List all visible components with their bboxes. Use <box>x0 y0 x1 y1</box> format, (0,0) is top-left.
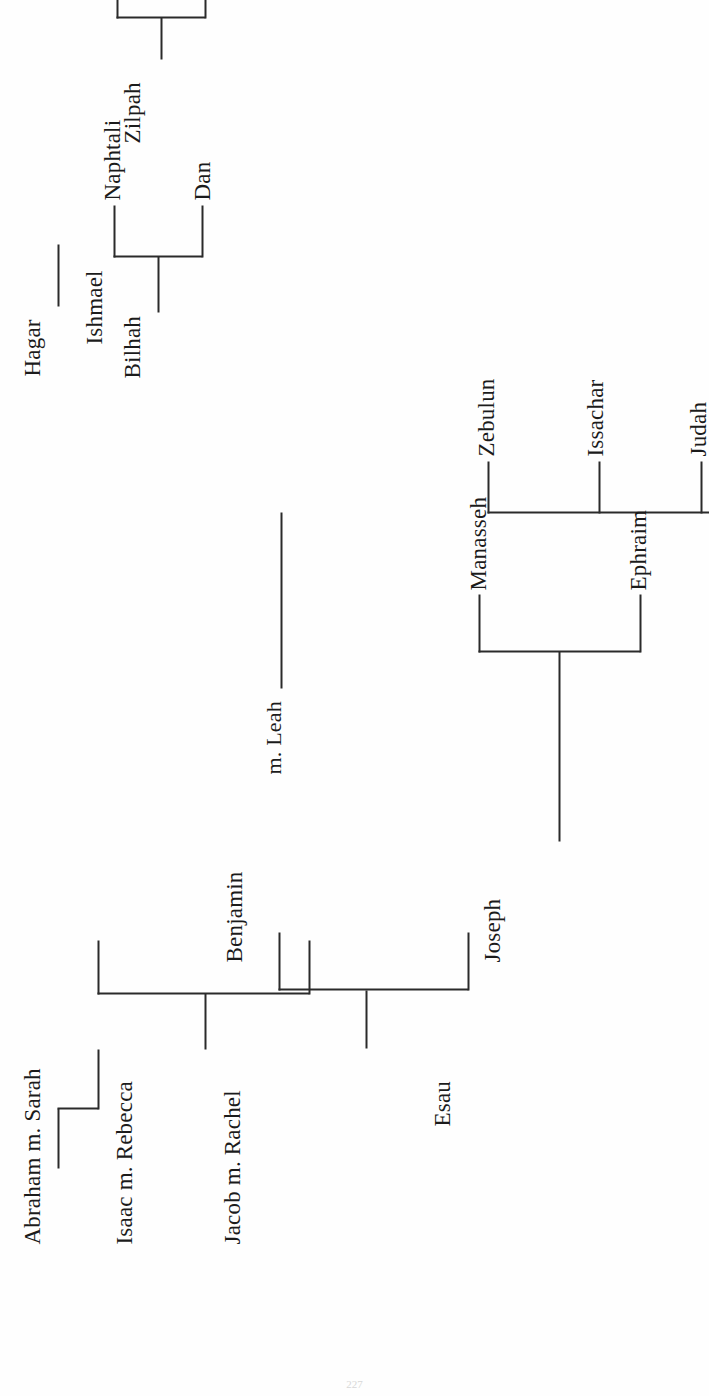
edge-joseph-stub <box>558 651 560 841</box>
edge-isaac-stub <box>204 993 206 1049</box>
edge-bilhah-bracket <box>113 255 202 257</box>
edge-isaac-to-esau <box>308 940 310 994</box>
edge-joseph-bracket <box>478 650 640 652</box>
node-bilhah: Bilhah <box>120 315 143 378</box>
genealogy-chart: Abraham m. Sarah Hagar Ishmael Isaac m. … <box>0 0 709 1396</box>
edge-joseph-to-manasseh <box>478 594 480 652</box>
page-number: 227 <box>0 1378 709 1390</box>
edge-leah-to-judah <box>700 461 702 513</box>
node-issachar: Issachar <box>583 379 606 456</box>
node-jacob: Jacob m. Rachel <box>220 1090 243 1244</box>
edge-abraham-step-drop <box>57 1107 98 1109</box>
node-manasseh: Manasseh <box>466 496 489 590</box>
edge-joseph-to-ephraim <box>639 594 641 652</box>
edge-bilhah-stub <box>157 256 159 312</box>
edge-zilpah-to-gad <box>204 0 206 18</box>
edge-abraham-step-top <box>57 1108 59 1168</box>
edge-zilpah-to-asher <box>116 0 118 18</box>
node-naphtali: Naphtali <box>100 119 123 200</box>
node-benjamin: Benjamin <box>222 871 245 962</box>
node-joseph: Joseph <box>480 898 503 962</box>
node-abraham: Abraham m. Sarah <box>20 1068 43 1244</box>
node-ephraim: Ephraim <box>626 509 649 590</box>
node-dan: Dan <box>190 161 213 200</box>
node-leah: m. Leah <box>262 701 284 774</box>
node-judah: Judah <box>686 401 709 456</box>
node-ishmael: Ishmael <box>82 270 105 344</box>
node-hagar: Hagar <box>20 319 43 376</box>
edge-zilpah-bracket <box>116 16 205 18</box>
node-zebulun: Zebulun <box>474 378 497 456</box>
edge-leah-to-issachar <box>598 461 600 513</box>
edge-jacob-bracket <box>278 988 468 990</box>
edge-zilpah-stub <box>160 17 162 59</box>
edge-bilhah-to-naphtali <box>113 205 115 257</box>
edge-bilhah-to-dan <box>201 205 203 257</box>
edge-jacob-to-joseph <box>467 932 469 990</box>
edge-jacob-stub <box>365 990 367 1048</box>
edge-abraham-step-bottom <box>97 1049 99 1109</box>
edge-leah-stub <box>280 512 282 688</box>
node-isaac: Isaac m. Rebecca <box>112 1081 135 1244</box>
edge-isaac-to-jacob <box>97 940 99 994</box>
edge-jacob-to-benjamin <box>278 932 280 990</box>
node-esau: Esau <box>430 1080 453 1126</box>
edge-isaac-bracket <box>97 992 309 994</box>
edge-hagar-ishmael <box>57 244 59 306</box>
page-sheet: Abraham m. Sarah Hagar Ishmael Isaac m. … <box>0 0 709 1396</box>
